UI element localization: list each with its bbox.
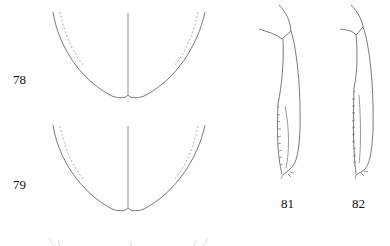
figure-81-drawing xyxy=(259,5,300,179)
fig82-inner-ridge xyxy=(359,95,361,163)
fig81-inner-ridge xyxy=(285,106,289,168)
figure-82-drawing xyxy=(340,5,373,179)
figure-78-drawing xyxy=(53,12,205,98)
fig81-attachment-line xyxy=(259,29,291,39)
partial-dashed-right xyxy=(194,240,196,246)
figure-label-78: 78 xyxy=(13,73,26,86)
figure-79-drawing xyxy=(53,125,205,211)
partial-dashed-left xyxy=(58,240,60,246)
fig82-inner-margin xyxy=(353,35,357,174)
partial-outline-left xyxy=(49,239,55,246)
fig79-inner-dashed-right xyxy=(174,126,198,180)
fig81-apical-spurs xyxy=(281,172,294,179)
figure-label-81: 81 xyxy=(281,197,294,210)
figure-label-79: 79 xyxy=(13,178,26,191)
figure-plate xyxy=(0,0,390,246)
fig81-inner-margin xyxy=(277,39,283,174)
fig82-joint-curve xyxy=(351,5,363,27)
partial-outline-right xyxy=(203,239,208,246)
fig78-inner-dashed-left xyxy=(60,12,84,66)
partial-figure-drawing xyxy=(49,239,208,246)
fig82-attachment-line xyxy=(340,27,363,35)
fig81-joint-curve xyxy=(279,5,291,31)
fig81-outer-margin xyxy=(283,31,300,175)
fig82-outer-margin xyxy=(356,27,373,175)
figure-label-82: 82 xyxy=(352,197,365,210)
